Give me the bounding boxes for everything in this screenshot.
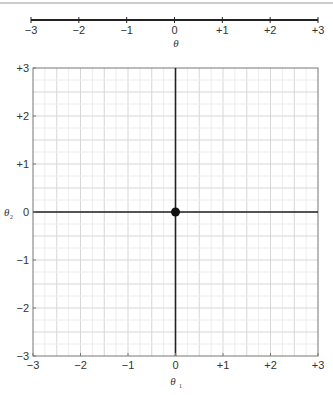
y-tick-label: −1 — [16, 254, 29, 266]
x-tick-label: +1 — [217, 359, 230, 371]
numberline-tick-label: −2 — [73, 24, 86, 36]
y-tick-label: +2 — [16, 110, 29, 122]
numberline-tick-label: −3 — [25, 24, 38, 36]
plot-x-label-subscript: 1 — [179, 383, 182, 389]
y-tick-label: 0 — [23, 206, 29, 218]
plot-x-label: θ — [170, 375, 176, 387]
y-tick-label: +1 — [16, 158, 29, 170]
numberline-tick-label: +1 — [216, 24, 229, 36]
numberline-tick-label: +3 — [312, 24, 325, 36]
x-tick-label: −1 — [122, 359, 135, 371]
x-tick-label: +2 — [264, 359, 277, 371]
theta-number-line: −3−2−10+1+2+3 — [25, 17, 325, 36]
y-tick-label: −2 — [16, 302, 29, 314]
x-tick-label: +3 — [312, 359, 325, 371]
data-points — [171, 208, 180, 217]
numberline-tick-label: +2 — [264, 24, 277, 36]
plot-y-label-subscript: 2 — [10, 214, 13, 220]
y-tick-label: +3 — [16, 62, 29, 74]
figure: −3−2−10+1+2+3 θ −3−2−10+1+2+3+3+2+10−1−2… — [0, 0, 333, 395]
x-tick-label: −2 — [74, 359, 87, 371]
y-tick-label: −3 — [16, 350, 29, 362]
numberline-tick-label: −1 — [120, 24, 133, 36]
data-point — [171, 208, 180, 217]
theta-plane-plot: −3−2−10+1+2+3+3+2+10−1−2−3 — [16, 62, 324, 371]
numberline-x-label: θ — [173, 37, 179, 49]
numberline-tick-label: 0 — [171, 24, 177, 36]
plot-ticks: −3−2−10+1+2+3+3+2+10−1−2−3 — [16, 62, 324, 371]
x-tick-label: 0 — [172, 359, 178, 371]
